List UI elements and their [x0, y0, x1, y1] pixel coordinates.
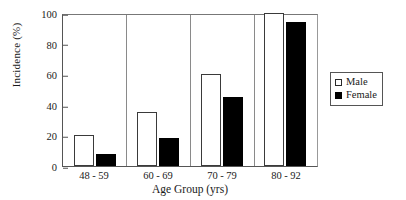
bar-group-70-79: [190, 15, 254, 166]
bar-group-48-59: [63, 15, 127, 166]
x-axis-title: Age Group (yrs): [62, 183, 318, 195]
bar-male-80-92[interactable]: [264, 13, 284, 166]
bar-male-70-79[interactable]: [201, 74, 221, 166]
legend-entry-male[interactable]: Male: [335, 76, 377, 89]
y-tick-60: 60: [11, 71, 63, 82]
chart-figure: Incidence (%) 0 20 40 60 80 100: [0, 0, 406, 200]
legend-entry-female[interactable]: Female: [335, 89, 377, 102]
legend: Male Female: [330, 72, 383, 106]
bar-female-80-92[interactable]: [286, 22, 306, 166]
bar-male-48-59[interactable]: [74, 135, 94, 166]
bar-female-60-69[interactable]: [159, 138, 179, 166]
plot-area: 0 20 40 60 80 100: [62, 14, 318, 167]
bar-female-70-79[interactable]: [223, 97, 243, 166]
bar-group-80-92: [254, 15, 318, 166]
bar-groups: [63, 15, 317, 166]
y-tick-80: 80: [11, 40, 63, 51]
legend-label-male: Male: [346, 77, 368, 88]
y-tick-20: 20: [11, 132, 63, 143]
hollow-square-icon: [335, 79, 342, 86]
bar-group-60-69: [127, 15, 191, 166]
bar-female-48-59[interactable]: [96, 154, 116, 166]
legend-label-female: Female: [346, 90, 377, 101]
y-tick-0: 0: [11, 163, 63, 174]
bar-male-60-69[interactable]: [137, 112, 157, 166]
y-tick-100: 100: [11, 10, 63, 21]
y-tick-40: 40: [11, 102, 63, 113]
filled-square-icon: [335, 92, 342, 99]
